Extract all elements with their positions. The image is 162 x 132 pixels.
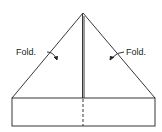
right-fold-label: Fold. bbox=[126, 47, 146, 57]
fold-diagram: Fold. Fold. bbox=[0, 0, 162, 132]
paper-base-rectangle bbox=[12, 98, 155, 126]
paper-airplane-diagram: Fold. Fold. bbox=[0, 0, 162, 132]
left-fold-label: Fold. bbox=[16, 47, 36, 57]
left-arrowhead-icon bbox=[54, 56, 58, 60]
